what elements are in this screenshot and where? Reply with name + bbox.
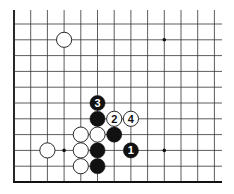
black-stone (90, 143, 105, 158)
move-number-label: 3 (94, 97, 100, 109)
star-point-icon (62, 149, 66, 153)
move-number-label: 4 (128, 113, 135, 125)
white-stone (73, 159, 88, 174)
black-stone (90, 159, 105, 174)
black-stone (90, 111, 105, 126)
white-stone (90, 127, 105, 142)
move-number-label: 1 (128, 144, 134, 156)
go-board: 3241 (0, 0, 234, 194)
white-stone-2: 2 (107, 111, 122, 126)
white-stone (73, 143, 88, 158)
star-point-icon (163, 149, 167, 153)
white-stone (73, 127, 88, 142)
star-point-icon (163, 38, 167, 42)
black-stone-1: 1 (123, 143, 138, 158)
black-stone-3: 3 (90, 95, 105, 110)
white-stone (57, 32, 72, 47)
white-stone-4: 4 (123, 111, 138, 126)
black-stone (107, 127, 122, 142)
move-number-label: 2 (111, 113, 117, 125)
white-stone (40, 143, 55, 158)
